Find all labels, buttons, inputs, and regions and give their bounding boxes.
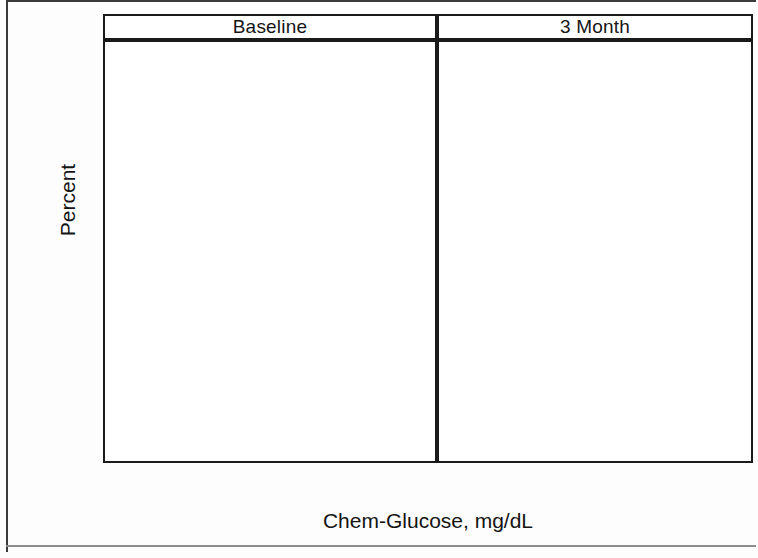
bars-baseline [105, 42, 435, 461]
page-edge-left [6, 0, 8, 552]
panel-header-3-month-label: 3 Month [560, 16, 630, 38]
x-axis-title: Chem-Glucose, mg/dL [103, 509, 753, 533]
page-edge-bottom [6, 545, 756, 547]
panel-header-3-month: 3 Month [437, 14, 753, 40]
bars-3-month [439, 42, 751, 461]
histogram-figure: Baseline 3 Month Percent Chem-Glucose, m… [0, 0, 758, 558]
panel-header-baseline: Baseline [103, 14, 437, 40]
y-axis-title: Percent [56, 130, 80, 270]
panel-header-baseline-label: Baseline [233, 16, 307, 38]
plot-panel-baseline [103, 42, 437, 463]
plot-panel-3-month [437, 42, 753, 463]
page-edge-top [6, 0, 756, 2]
